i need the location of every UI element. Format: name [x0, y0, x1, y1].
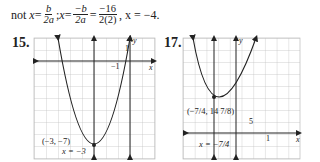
vertex-point-17 [212, 95, 216, 99]
tick-label-y-17: 5 [249, 117, 253, 126]
graphs: (−3, −7) x = −3 −1 1 x y (−7/4, 14 7/8) … [0, 0, 320, 162]
tick-label-x-15: −1 [111, 62, 120, 71]
y-axis-label-15: y [132, 36, 137, 45]
tick-label-y-15: 1 [125, 44, 129, 53]
graph-17: (−7/4, 14 7/8) x = −7/4 1 5 x y [183, 36, 300, 159]
symmetry-label-17: x = −7/4 [198, 139, 230, 149]
x-axis-label-17: x [295, 135, 300, 144]
vertex-label-17: (−7/4, 14 7/8) [187, 106, 234, 116]
symmetry-label-15: x = −3 [61, 146, 86, 156]
vertex-point-15 [92, 143, 96, 147]
tick-label-x-17: 1 [266, 134, 270, 143]
x-axis-label-15: x [148, 63, 153, 72]
vertex-label-15: (−3, −7) [42, 136, 70, 146]
y-axis-label-17: y [238, 36, 243, 45]
graph-15: (−3, −7) x = −3 −1 1 x y [34, 36, 155, 159]
